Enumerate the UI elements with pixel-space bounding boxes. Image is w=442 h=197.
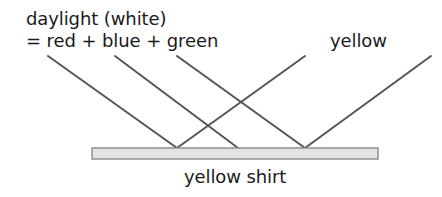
yellow-ray-label: yellow: [330, 30, 387, 51]
incident-ray-2: [115, 56, 238, 148]
yellow-shirt-surface: [92, 148, 378, 159]
incident-ray-1: [48, 56, 177, 148]
daylight-label-line-2: = red + blue + green: [26, 30, 218, 51]
reflected-ray-2: [305, 56, 431, 148]
daylight-label-line-1: daylight (white): [26, 8, 166, 29]
diagram-canvas: daylight (white) = red + blue + green ye…: [0, 0, 442, 197]
yellow-shirt-label: yellow shirt: [184, 166, 286, 187]
